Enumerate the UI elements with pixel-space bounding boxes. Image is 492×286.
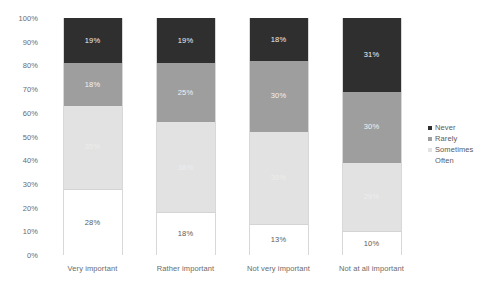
y-axis-tick: 50%: [23, 132, 38, 141]
bar-segment-rarely[interactable]: 25%: [156, 63, 216, 122]
bar-segment-value-label: 18%: [85, 81, 100, 89]
bar-segment-value-label: 18%: [271, 36, 286, 44]
bar-segment-value-label: 38%: [178, 164, 193, 172]
bar-segment-value-label: 28%: [85, 219, 100, 227]
bar-segment-rarely[interactable]: 30%: [342, 92, 402, 163]
y-axis-tick: 60%: [23, 108, 38, 117]
x-axis-category-label: Very important: [46, 258, 139, 278]
x-axis-category-label: Not at all important: [325, 258, 418, 278]
y-axis-tick: 20%: [23, 203, 38, 212]
bar-column[interactable]: 28%35%18%19%: [63, 18, 123, 255]
x-axis-category-label: Not very important: [232, 258, 325, 278]
y-axis-tick: 70%: [23, 85, 38, 94]
bar-segment-value-label: 18%: [178, 230, 193, 238]
bar-segment-rarely[interactable]: 30%: [249, 61, 309, 132]
bar-segment-often[interactable]: 13%: [249, 224, 309, 255]
bar-segment-sometimes[interactable]: 35%: [63, 106, 123, 189]
bar-segment-sometimes[interactable]: 38%: [156, 122, 216, 212]
y-axis-tick: 40%: [23, 156, 38, 165]
x-axis: Very importantRather importantNot very i…: [46, 258, 418, 278]
bar-segment-rarely[interactable]: 18%: [63, 63, 123, 106]
bar-segment-never[interactable]: 19%: [156, 18, 216, 63]
legend-label: Sometimes: [435, 145, 473, 154]
y-axis-tick: 30%: [23, 179, 38, 188]
bar-segment-often[interactable]: 28%: [63, 189, 123, 255]
legend-item[interactable]: Sometimes: [428, 144, 490, 155]
bar-segment-value-label: 39%: [271, 174, 286, 182]
bar-segment-value-label: 19%: [178, 37, 193, 45]
bar-segment-value-label: 25%: [178, 89, 193, 97]
axis-baseline: [46, 255, 418, 256]
legend-label: Often: [435, 156, 454, 165]
legend-swatch-icon: [428, 159, 432, 163]
bar-segment-value-label: 30%: [271, 92, 286, 100]
bar-segment-value-label: 35%: [85, 143, 100, 151]
bar-segment-value-label: 30%: [364, 123, 379, 131]
legend-label: Rarely: [435, 134, 457, 143]
bar-segment-value-label: 10%: [364, 240, 379, 248]
legend-swatch-icon: [428, 126, 432, 130]
bar-column[interactable]: 10%29%30%31%: [342, 18, 402, 255]
bar-segment-often[interactable]: 10%: [342, 231, 402, 255]
legend-swatch-icon: [428, 148, 432, 152]
legend-item[interactable]: Often: [428, 155, 490, 166]
y-axis-tick: 10%: [23, 227, 38, 236]
bar-segment-never[interactable]: 31%: [342, 18, 402, 91]
y-axis-tick: 90%: [23, 37, 38, 46]
x-axis-category-label: Rather important: [139, 258, 232, 278]
stacked-bar-chart: 0%10%20%30%40%50%60%70%80%90%100% 28%35%…: [0, 0, 492, 286]
y-axis-tick: 100%: [18, 14, 38, 23]
plot-area: 28%35%18%19%18%38%25%19%13%39%30%18%10%2…: [46, 18, 418, 255]
y-axis-tick: 80%: [23, 61, 38, 70]
bar-segment-never[interactable]: 19%: [63, 18, 123, 63]
bar-segment-never[interactable]: 18%: [249, 18, 309, 61]
bar-segment-value-label: 13%: [271, 236, 286, 244]
bar-column[interactable]: 18%38%25%19%: [156, 18, 216, 255]
legend-item[interactable]: Rarely: [428, 133, 490, 144]
bar-segment-sometimes[interactable]: 29%: [342, 163, 402, 232]
bar-column[interactable]: 13%39%30%18%: [249, 18, 309, 255]
legend-label: Never: [435, 123, 456, 132]
bar-segment-sometimes[interactable]: 39%: [249, 132, 309, 224]
legend-swatch-icon: [428, 137, 432, 141]
legend-item[interactable]: Never: [428, 122, 490, 133]
y-axis-tick: 0%: [27, 251, 38, 260]
bar-segment-value-label: 31%: [364, 51, 379, 59]
bar-segment-value-label: 29%: [364, 193, 379, 201]
bar-segment-often[interactable]: 18%: [156, 212, 216, 255]
bar-group: 28%35%18%19%18%38%25%19%13%39%30%18%10%2…: [46, 18, 418, 255]
chart-legend: NeverRarelySometimesOften: [428, 122, 490, 166]
y-axis: 0%10%20%30%40%50%60%70%80%90%100%: [0, 18, 42, 255]
bar-segment-value-label: 19%: [85, 37, 100, 45]
